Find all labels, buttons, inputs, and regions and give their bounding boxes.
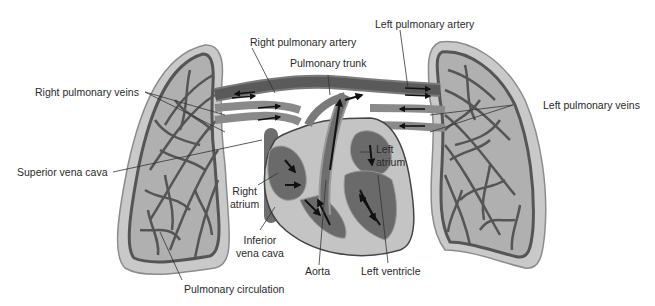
label-left-pulmonary-artery: Left pulmonary artery xyxy=(375,18,474,31)
label-aorta: Aorta xyxy=(305,265,330,278)
label-left-atrium: Left atrium xyxy=(376,143,405,169)
label-right-pulmonary-veins: Right pulmonary veins xyxy=(35,86,139,99)
label-pulmonary-circulation: Pulmonary circulation xyxy=(184,283,284,296)
label-left-ventricle: Left ventricle xyxy=(361,265,421,278)
label-left-atrium-line1: Left xyxy=(376,143,405,156)
label-superior-vena-cava: Superior vena cava xyxy=(17,166,107,179)
label-left-atrium-line2: atrium xyxy=(376,156,405,169)
label-right-atrium: Right atrium xyxy=(230,185,259,211)
left-lung xyxy=(428,42,545,269)
label-inferior-vena-cava: Inferior vena cava xyxy=(236,234,284,260)
label-pulmonary-trunk: Pulmonary trunk xyxy=(290,57,366,70)
label-inferior-vena-cava-line2: vena cava xyxy=(236,247,284,260)
right-lung xyxy=(118,45,230,274)
label-right-atrium-line2: atrium xyxy=(230,198,259,211)
label-left-pulmonary-veins: Left pulmonary veins xyxy=(543,99,640,112)
label-right-pulmonary-artery: Right pulmonary artery xyxy=(250,36,356,49)
label-right-atrium-line1: Right xyxy=(230,185,259,198)
label-inferior-vena-cava-line1: Inferior xyxy=(236,234,284,247)
